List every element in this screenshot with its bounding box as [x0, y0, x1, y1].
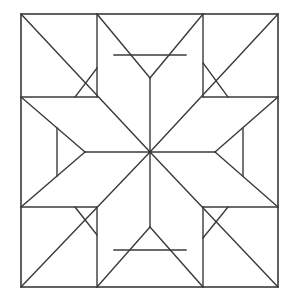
center-point [148, 150, 152, 154]
quilt-block-figure [0, 0, 286, 301]
quilt-block-drawing [0, 0, 286, 301]
